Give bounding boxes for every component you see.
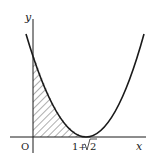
origin-label: O: [21, 141, 29, 152]
vertex-label: 1+ 2: [72, 139, 97, 152]
y-axis-label: y: [24, 11, 32, 24]
shaded-region: [33, 52, 87, 137]
graph-canvas: y x O 1+ 2: [0, 0, 154, 159]
svg-text:1+: 1+: [72, 141, 87, 152]
x-axis-label: x: [136, 140, 143, 153]
svg-text:2: 2: [90, 141, 96, 152]
